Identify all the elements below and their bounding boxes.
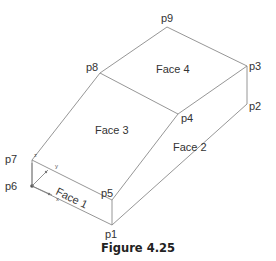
axis-z-label: z	[34, 152, 37, 158]
solid-diagram: z y x p9 p8 p3 p4 p2 p7 p6 p5 p1 Face 4 …	[0, 0, 276, 261]
edge-p9-p3	[167, 27, 247, 66]
figure-caption: Figure 4.25	[0, 241, 276, 255]
edge-p1-p2	[112, 104, 247, 225]
point-label-p8: p8	[86, 61, 98, 73]
point-label-p2: p2	[249, 100, 261, 112]
face-label-4: Face 4	[156, 63, 190, 75]
point-label-p3: p3	[249, 60, 261, 72]
point-label-p9: p9	[161, 12, 173, 24]
point-label-p7: p7	[5, 153, 17, 165]
axis-y-label: y	[55, 163, 58, 169]
face-label-2: Face 2	[173, 141, 207, 153]
point-label-p5: p5	[101, 187, 113, 199]
edge-p8-p7	[32, 73, 100, 160]
face-label-1: Face 1	[54, 185, 89, 211]
point-label-p6: p6	[5, 180, 17, 192]
face-label-3: Face 3	[95, 124, 129, 136]
point-label-p1: p1	[105, 228, 117, 240]
point-label-p4: p4	[181, 112, 193, 124]
edge-p8-p4	[100, 73, 178, 114]
